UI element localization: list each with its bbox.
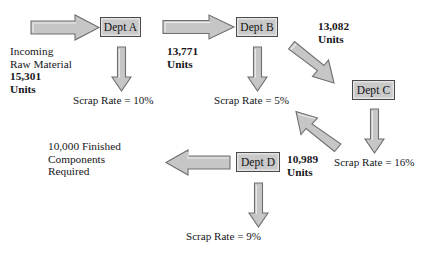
node-dept-a[interactable]: Dept A — [100, 17, 141, 37]
flow-value-after-dept-c: 10,989 — [287, 153, 318, 166]
flow-label-after-dept-c: 10,989 Units — [287, 153, 318, 178]
arrow-dept-a-to-dept-b — [162, 14, 235, 40]
flow-label-after-dept-b: 13,082 Units — [318, 20, 349, 45]
flow-unit-after-dept-c: Units — [287, 166, 318, 179]
node-dept-b[interactable]: Dept B — [236, 17, 278, 37]
output-line-1: 10,000 Finished — [48, 140, 121, 153]
output-line-3: Required — [48, 165, 121, 178]
arrow-dept-d-to-output — [165, 149, 231, 176]
scrap-rate-dept-c: Scrap Rate = 16% — [334, 157, 415, 169]
flow-label-after-dept-a: 13,771 Units — [167, 45, 198, 70]
node-dept-d[interactable]: Dept D — [236, 152, 280, 172]
output-line-2: Components — [48, 153, 121, 166]
input-quantity: 15,301 — [10, 70, 72, 83]
input-line-1: Incoming — [10, 45, 72, 58]
flow-value-after-dept-a: 13,771 — [167, 45, 198, 58]
scrap-rate-dept-d: Scrap Rate = 9% — [186, 231, 261, 243]
arrow-input-to-dept-a — [30, 14, 100, 41]
flowchart-canvas: Dept A Dept B Dept C Dept D — [0, 0, 435, 255]
arrow-scrap-dept-a — [111, 46, 132, 92]
arrow-scrap-dept-c — [364, 108, 385, 154]
scrap-rate-dept-a: Scrap Rate = 10% — [73, 95, 154, 107]
input-label: Incoming Raw Material 15,301 Units — [10, 45, 72, 95]
flow-unit-after-dept-a: Units — [167, 58, 198, 71]
arrow-scrap-dept-d — [248, 182, 269, 228]
input-units: Units — [10, 83, 72, 96]
arrow-scrap-dept-b — [247, 46, 268, 92]
flow-unit-after-dept-b: Units — [318, 33, 349, 46]
arrow-dept-c-to-dept-d — [288, 110, 344, 154]
output-label: 10,000 Finished Components Required — [48, 140, 121, 178]
arrow-dept-b-to-dept-c — [286, 40, 346, 85]
node-dept-c[interactable]: Dept C — [352, 80, 395, 100]
scrap-rate-dept-b: Scrap Rate = 5% — [214, 95, 289, 107]
input-line-2: Raw Material — [10, 58, 72, 71]
flow-value-after-dept-b: 13,082 — [318, 20, 349, 33]
